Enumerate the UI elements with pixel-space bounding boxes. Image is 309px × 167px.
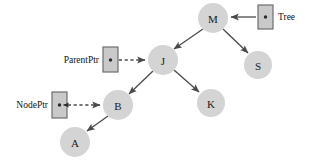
node-label: B xyxy=(114,100,121,112)
pointer-tree[interactable]: Tree xyxy=(258,5,295,29)
node-label: K xyxy=(207,98,215,110)
pointer-parentptr[interactable]: ParentPtr xyxy=(64,47,118,72)
node-j[interactable]: J xyxy=(148,45,178,75)
pointer-dot xyxy=(58,103,61,106)
edge-m-s xyxy=(223,29,248,53)
node-k[interactable]: K xyxy=(197,89,225,117)
pointer-dot xyxy=(264,15,267,18)
tree-nodes: M S J B K A xyxy=(60,3,272,157)
pointer-label-nodeptr: NodePtr xyxy=(16,100,49,110)
node-label: J xyxy=(161,55,166,67)
binary-tree-diagram: M S J B K A xyxy=(0,0,309,167)
node-s[interactable]: S xyxy=(244,51,272,79)
edge-j-b xyxy=(129,71,153,94)
pointer-nodeptr[interactable]: NodePtr xyxy=(16,92,68,118)
node-m[interactable]: M xyxy=(198,3,228,33)
pointer-label-parentptr: ParentPtr xyxy=(64,55,100,65)
diagram-canvas: M S J B K A xyxy=(0,0,309,167)
edge-b-a xyxy=(87,116,108,131)
edge-j-k xyxy=(174,70,199,92)
node-b[interactable]: B xyxy=(103,90,133,120)
pointer-label-tree: Tree xyxy=(278,12,295,22)
node-label: S xyxy=(255,60,261,72)
edge-m-j xyxy=(174,29,203,49)
node-a[interactable]: A xyxy=(60,127,90,157)
pointer-dot xyxy=(109,58,112,61)
node-label: A xyxy=(71,137,79,149)
node-label: M xyxy=(208,13,218,25)
